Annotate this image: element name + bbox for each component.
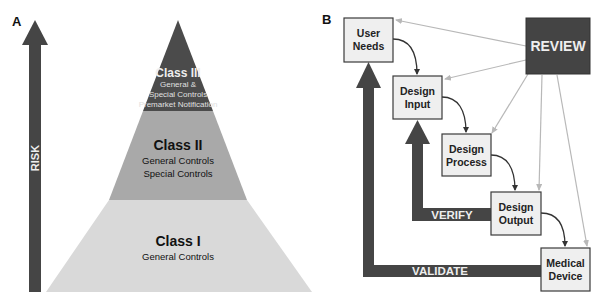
review-to-design-output-line bbox=[539, 75, 542, 190]
box-label: User bbox=[357, 27, 380, 39]
box-label: Needs bbox=[353, 40, 385, 52]
verify-label: VERIFY bbox=[431, 209, 473, 221]
box-user-needs: User Needs bbox=[344, 18, 393, 62]
box-label: Process bbox=[446, 156, 487, 168]
up-arrow-icon bbox=[405, 120, 430, 144]
design-process-to-design-output-arrow bbox=[491, 155, 515, 190]
box-design-input: Design Input bbox=[393, 76, 442, 119]
class-iii-line: Special Controls bbox=[149, 90, 207, 99]
review-box: REVIEW bbox=[526, 18, 590, 74]
box-design-process: Design Process bbox=[442, 134, 491, 176]
class-i-title: Class I bbox=[155, 233, 200, 249]
design-output-to-medical-device-arrow bbox=[541, 213, 565, 246]
review-to-design-process-line bbox=[492, 74, 528, 133]
box-design-output: Design Output bbox=[491, 192, 541, 235]
box-label: Design bbox=[498, 201, 533, 213]
risk-label: RISK bbox=[29, 145, 41, 171]
box-label: Output bbox=[499, 214, 534, 226]
panel-a: A RISK Class III General & Special Contr… bbox=[12, 14, 312, 292]
panel-b-label: B bbox=[322, 12, 331, 27]
box-medical-device: Medical Device bbox=[541, 248, 590, 291]
box-label: Device bbox=[549, 270, 583, 282]
review-label: REVIEW bbox=[530, 38, 586, 54]
pyramid: Class III General & Special Controls Pre… bbox=[46, 20, 312, 292]
class-ii-line: General Controls bbox=[142, 155, 214, 166]
up-arrow-icon bbox=[356, 62, 381, 88]
panel-a-label: A bbox=[12, 14, 22, 29]
review-to-user-needs-line bbox=[396, 20, 526, 46]
class-iii-line: Premarket Notification bbox=[139, 100, 218, 109]
box-label: Design bbox=[400, 85, 435, 97]
review-to-medical-device-line bbox=[557, 75, 587, 246]
user-needs-to-design-input-arrow bbox=[393, 39, 417, 74]
design-input-to-design-process-arrow bbox=[442, 97, 466, 132]
box-label: Input bbox=[405, 98, 431, 110]
class-iii-title: Class III bbox=[155, 66, 200, 80]
panel-b: B VALIDATE VERIFY bbox=[322, 12, 590, 291]
box-label: Design bbox=[449, 143, 484, 155]
box-label: Medical bbox=[546, 257, 585, 269]
class-ii-title: Class II bbox=[153, 137, 202, 153]
class-i-line: General Controls bbox=[142, 251, 214, 262]
validate-label: VALIDATE bbox=[412, 265, 468, 277]
figure-canvas: A RISK Class III General & Special Contr… bbox=[0, 0, 602, 301]
review-to-design-input-line bbox=[445, 60, 526, 79]
risk-arrow: RISK bbox=[22, 20, 48, 292]
class-iii-line: General & bbox=[160, 80, 197, 89]
class-ii-line: Special Controls bbox=[143, 168, 212, 179]
up-arrow-icon bbox=[22, 20, 48, 45]
